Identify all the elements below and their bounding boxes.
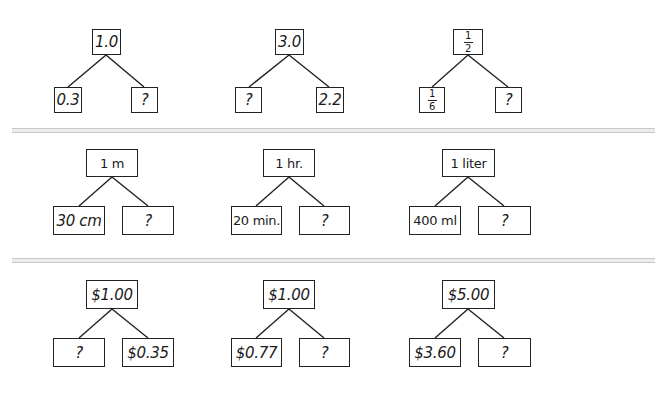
whole-box: $1.00 [263, 280, 315, 309]
connector-line [256, 177, 289, 206]
part-box-left: 20 min. [231, 206, 282, 235]
part-box-right-unknown[interactable]: ? [122, 206, 174, 235]
connector-line [112, 177, 148, 206]
section-divider [12, 128, 655, 133]
whole-box: $1.00 [86, 280, 138, 309]
part-box-right-unknown[interactable]: ? [131, 87, 158, 113]
part-box-right: $0.35 [122, 338, 174, 367]
part-box-right-unknown[interactable]: ? [478, 206, 531, 235]
numerator: 1 [429, 89, 435, 99]
connector-line [468, 55, 508, 87]
part-box-left: 0.3 [54, 87, 82, 113]
whole-box: 1 m [86, 149, 138, 177]
connector-lines [0, 0, 669, 396]
part-box-right-unknown[interactable]: ? [478, 338, 531, 367]
connector-line [289, 177, 324, 206]
connector-line [468, 177, 504, 206]
whole-box: 1 liter [442, 149, 495, 177]
connector-line [106, 55, 144, 87]
connector-line [256, 309, 289, 338]
part-box-right-unknown[interactable]: ? [495, 87, 522, 113]
part-box-right-unknown[interactable]: ? [299, 338, 350, 367]
connector-line [289, 309, 324, 338]
part-box-left: $3.60 [409, 338, 461, 367]
denominator: 2 [465, 44, 471, 54]
connector-line [79, 309, 112, 338]
connector-line [249, 55, 289, 87]
whole-box: 3.0 [275, 29, 304, 55]
denominator: 6 [429, 102, 435, 112]
part-box-left: 30 cm [53, 206, 105, 235]
connector-line [68, 55, 106, 87]
connector-line [112, 309, 148, 338]
part-box-left-unknown[interactable]: ? [53, 338, 105, 367]
connector-line [79, 177, 112, 206]
fraction: 1 2 [464, 31, 473, 54]
part-box-right: 2.2 [316, 87, 344, 113]
whole-box-fraction: 1 2 [453, 29, 483, 55]
whole-box: 1 hr. [263, 149, 315, 177]
part-box-right-unknown[interactable]: ? [299, 206, 350, 235]
connector-line [432, 55, 468, 87]
part-box-left-fraction: 1 6 [419, 87, 445, 113]
whole-box: 1.0 [92, 29, 121, 55]
connector-line [435, 309, 468, 338]
connector-line [289, 55, 329, 87]
numerator: 1 [465, 31, 471, 41]
whole-box: $5.00 [442, 280, 495, 309]
connector-line [435, 177, 468, 206]
part-box-left-unknown[interactable]: ? [235, 87, 262, 113]
connector-line [468, 309, 504, 338]
part-box-left: $0.77 [231, 338, 282, 367]
part-box-left: 400 ml [409, 206, 461, 235]
section-divider [12, 258, 655, 263]
fraction: 1 6 [428, 89, 437, 112]
